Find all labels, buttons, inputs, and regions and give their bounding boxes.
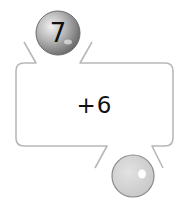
input-value: 7 — [36, 11, 80, 55]
output-value[interactable] — [112, 155, 154, 197]
operation-label: +6 — [16, 63, 173, 146]
